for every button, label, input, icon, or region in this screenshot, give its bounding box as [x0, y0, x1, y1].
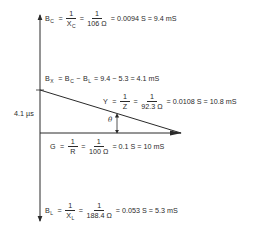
bc-fraction-2: 1 106 Ω — [87, 10, 106, 27]
equals-sign: = — [81, 143, 85, 150]
bl-result: = 0.053 S = 5.3 mS — [116, 207, 178, 214]
bc-symbol: BC — [45, 15, 54, 22]
bl-fraction-2: 1 188.4 Ω — [86, 202, 111, 219]
equals-sign: = — [79, 207, 83, 214]
equals-sign: = — [58, 75, 62, 82]
y-fraction-1: 1 Z — [120, 93, 130, 110]
bc-result: = 0.0094 S = 9.4 mS — [111, 15, 177, 22]
bx-term-2: BL — [83, 75, 91, 82]
y-fraction-2: 1 92.3 Ω — [141, 93, 162, 110]
bl-equation: BL = 1 XL = 1 188.4 Ω = 0.053 S = 5.3 mS — [45, 202, 178, 219]
equals-sign: = — [60, 143, 64, 150]
y-equation: Y = 1 Z = 1 92.3 Ω = 0.0108 S = 10.8 mS — [103, 93, 237, 110]
g-symbol: G — [50, 143, 56, 150]
equals-sign: = — [58, 15, 62, 22]
bc-equation: BC = 1 XC = 1 106 Ω = 0.0094 S = 9.4 mS — [45, 10, 177, 27]
theta-label: θ — [108, 117, 112, 124]
equals-sign: = — [134, 98, 138, 105]
g-fraction-1: 1 R — [68, 138, 78, 155]
y-result: = 0.0108 S = 10.8 mS — [167, 98, 237, 105]
equals-sign: = — [112, 98, 116, 105]
bx-term-1: BC — [65, 75, 74, 82]
bx-equation: BX = BC − BL = 9.4 − 5.3 = 4.1 mS — [45, 75, 159, 82]
minus-sign: − — [76, 75, 80, 82]
bx-result: = 9.4 − 5.3 = 4.1 mS — [94, 75, 159, 82]
phasor-diagram — [0, 0, 257, 234]
bl-fraction-1: 1 XL — [65, 202, 75, 219]
g-equation: G = 1 R = 1 100 Ω = 0.1 S = 10 mS — [50, 138, 164, 155]
bc-fraction-1: 1 XC — [66, 10, 76, 27]
g-fraction-2: 1 100 Ω — [89, 138, 108, 155]
bx-symbol: BX — [45, 75, 54, 82]
bl-symbol: BL — [45, 207, 53, 214]
axis-label: 4.1 µs — [14, 110, 34, 117]
y-symbol: Y — [103, 98, 108, 105]
equals-sign: = — [80, 15, 84, 22]
g-result: = 0.1 S = 10 mS — [112, 143, 164, 150]
equals-sign: = — [58, 207, 62, 214]
